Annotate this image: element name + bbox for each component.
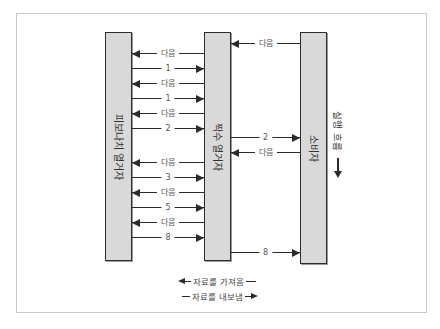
arrowhead-left-icon (132, 110, 140, 118)
arrowhead-left-icon (132, 80, 140, 88)
even-enumerator-bar: 짝수 열거자 (204, 32, 231, 261)
fetch-arrow: 다음 (132, 187, 204, 198)
fetch-arrow: 다음 (231, 147, 300, 158)
emit-arrow: 1 (132, 63, 204, 74)
fibonacci-enumerator-bar: 피보나치 열거자 (105, 32, 132, 261)
flow-down-arrow-icon (337, 158, 339, 172)
arrowhead-right-icon (196, 95, 204, 103)
arrowhead-left-icon (132, 50, 140, 58)
arrowhead-right-icon (196, 65, 204, 73)
fetch-arrow: 다음 (132, 78, 204, 89)
consumer-label: 소비자 (306, 135, 321, 162)
arrowhead-right-icon (196, 174, 204, 182)
arrowhead-left-icon (178, 278, 185, 284)
emit-arrow: 1 (132, 93, 204, 104)
arrowhead-left-icon (231, 40, 239, 48)
emit-arrow: 3 (132, 172, 204, 183)
fetch-arrow: 다음 (132, 157, 204, 168)
legend-fetch: 자료를 가져옴 (178, 275, 256, 287)
consumer-bar: 소비자 (300, 32, 327, 264)
arrowhead-right-icon (251, 293, 258, 299)
arrowhead-left-icon (132, 219, 140, 227)
arrowhead-right-icon (196, 125, 204, 133)
fetch-arrow: 다음 (132, 217, 204, 228)
emit-arrow: 2 (231, 132, 300, 143)
emit-arrow: 8 (132, 232, 204, 243)
fetch-arrow: 다음 (132, 108, 204, 119)
fetch-arrow: 다음 (132, 48, 204, 59)
arrowhead-left-icon (132, 189, 140, 197)
even-enumerator-label: 짝수 열거자 (210, 122, 225, 170)
fetch-arrow: 다음 (231, 38, 300, 49)
fibonacci-enumerator-label: 피보나치 열거자 (111, 113, 126, 179)
legend-emit: 자료를 내보냄 (182, 290, 258, 302)
emit-arrow: 2 (132, 123, 204, 134)
arrowhead-left-icon (132, 159, 140, 167)
emit-arrow: 8 (231, 247, 300, 258)
execution-flow-label: 실행 흐름 (331, 111, 345, 150)
emit-arrow: 5 (132, 202, 204, 213)
arrowhead-right-icon (196, 234, 204, 242)
arrowhead-right-icon (196, 204, 204, 212)
arrowhead-right-icon (292, 249, 300, 257)
arrowhead-left-icon (231, 149, 239, 157)
arrowhead-right-icon (292, 134, 300, 142)
